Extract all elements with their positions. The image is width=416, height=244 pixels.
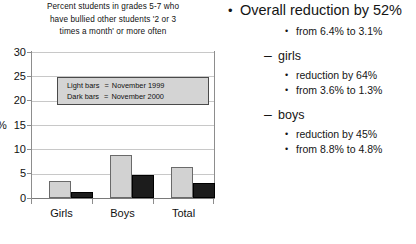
bullet-dot-icon: •	[285, 83, 288, 98]
bar-chart: Percent students in grades 5-7 who have …	[0, 0, 222, 244]
x-category-label-boys: Boys	[92, 207, 153, 220]
bullet-girls-reduction: • reduction by 64%	[296, 68, 416, 83]
summary-bullet-list: • Overall reduction by 52% • from 6.4% t…	[222, 0, 416, 244]
bullet-overall-from-to: • from 6.4% to 3.1%	[296, 24, 416, 39]
bullet-group-boys-label: boys	[278, 108, 304, 122]
bar-boys-2000	[132, 175, 154, 198]
bullet-girls-from-to: • from 3.6% to 1.3%	[296, 83, 416, 98]
gridline-15	[32, 125, 214, 126]
bullet-dot-icon: •	[285, 68, 288, 83]
legend-key-label: Light bars	[67, 81, 99, 92]
y-axis-label-percent: %	[0, 120, 7, 131]
bullet-dash-icon: –	[264, 106, 272, 122]
bullet-girls-from-to-text: from 3.6% to 1.3%	[296, 84, 382, 96]
bar-total-2000	[193, 183, 215, 198]
bullet-boys-reduction-text: reduction by 45%	[296, 128, 377, 140]
legend-key-label: Dark bars	[67, 92, 99, 103]
bullet-dot-icon: •	[285, 127, 288, 142]
bullet-overall-from-to-text: from 6.4% to 3.1%	[296, 25, 382, 37]
x-tick-mark	[153, 199, 154, 204]
y-tick-label-10: 10	[0, 144, 26, 155]
x-category-label-total: Total	[153, 207, 214, 220]
legend-entry-light-bars: Light bars=November 1999	[67, 81, 208, 92]
chart-legend: Light bars=November 1999 Dark bars=Novem…	[57, 77, 209, 105]
spacer	[222, 38, 416, 48]
y-tick-label-5: 5	[0, 168, 26, 179]
legend-equals: =	[99, 81, 111, 92]
chart-title-line: have bullied other students '2 or 3	[18, 14, 208, 27]
bullet-overall-reduction-text: Overall reduction by 52%	[240, 2, 402, 18]
spacer	[222, 97, 416, 107]
slide-root: Percent students in grades 5-7 who have …	[0, 0, 416, 244]
bar-total-1999	[171, 167, 193, 198]
x-tick-mark	[31, 199, 32, 204]
bullet-overall-reduction: • Overall reduction by 52%	[240, 2, 416, 20]
bullet-group-boys: – boys	[278, 107, 416, 123]
bar-girls-1999	[49, 181, 71, 199]
chart-title-line: Percent students in grades 5-7 who	[18, 1, 208, 14]
bullet-dot-icon: •	[228, 2, 233, 20]
chart-title-line: times a month' or more often	[18, 26, 208, 39]
y-tick-label-0: 0	[0, 193, 26, 204]
chart-title: Percent students in grades 5-7 who have …	[18, 1, 208, 39]
bullet-dash-icon: –	[264, 47, 272, 63]
x-tick-mark	[92, 199, 93, 204]
bullet-group-girls: – girls	[278, 48, 416, 64]
bar-girls-2000	[71, 192, 93, 198]
y-tick-label-25: 25	[0, 71, 26, 82]
legend-value-label: November 1999	[112, 81, 165, 90]
bullet-dot-icon: •	[285, 24, 288, 39]
x-tick-mark	[213, 199, 214, 204]
gridline-10	[32, 149, 214, 150]
bar-boys-1999	[110, 155, 132, 198]
y-axis-tick-labels: 30 25 20 15 10 5 0 %	[0, 0, 26, 244]
y-tick-label-20: 20	[0, 95, 26, 106]
x-category-label-girls: Girls	[31, 207, 92, 220]
bullet-boys-from-to: • from 8.8% to 4.8%	[296, 142, 416, 157]
gridline-30	[32, 52, 214, 53]
plot-area	[32, 52, 214, 198]
legend-entry-dark-bars: Dark bars=November 2000	[67, 92, 208, 103]
legend-value-label: November 2000	[111, 92, 164, 101]
legend-equals: =	[99, 92, 111, 103]
bullet-dot-icon: •	[285, 142, 288, 157]
bullet-girls-reduction-text: reduction by 64%	[296, 69, 377, 81]
bullet-boys-reduction: • reduction by 45%	[296, 127, 416, 142]
bullet-group-girls-label: girls	[278, 49, 301, 63]
y-tick-label-30: 30	[0, 47, 26, 58]
bullet-boys-from-to-text: from 8.8% to 4.8%	[296, 143, 382, 155]
